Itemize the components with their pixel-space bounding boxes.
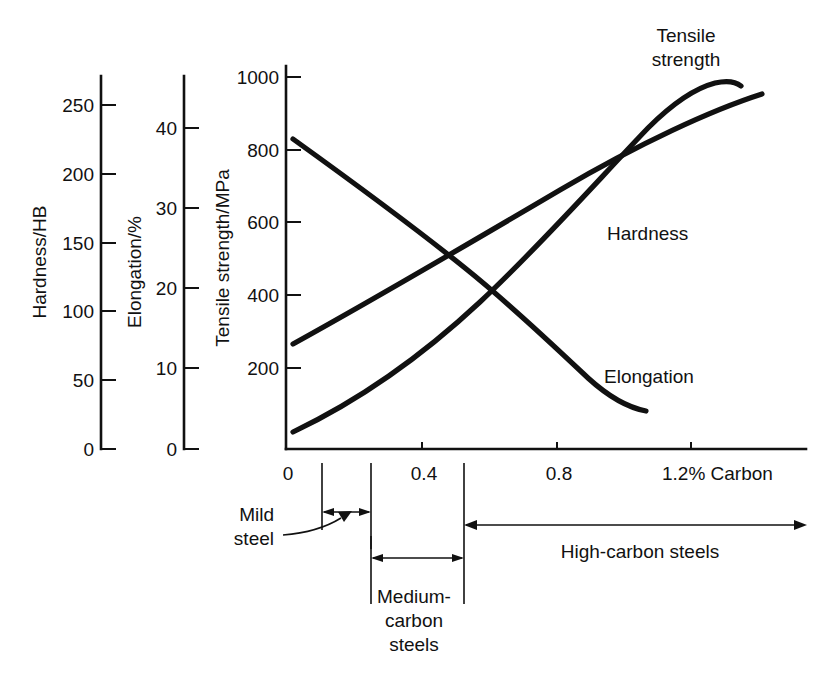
elongation-tick-label-10: 10 bbox=[156, 358, 177, 379]
hardness-curve bbox=[293, 94, 762, 344]
medium-carbon-label-line3: steels bbox=[389, 634, 439, 655]
elongation-tick-label-30: 30 bbox=[156, 198, 177, 219]
hardness-tick-label-200: 200 bbox=[62, 164, 94, 185]
mild-steel-leader-path bbox=[283, 518, 341, 535]
carbon-tick-label-1p2-carbon: 1.2% Carbon bbox=[662, 463, 773, 484]
carbon-tick-label-0p4: 0.4 bbox=[411, 463, 438, 484]
curve-labels: Tensile strength Hardness Elongation bbox=[604, 25, 720, 387]
hardness-tick-label-250: 250 bbox=[62, 95, 94, 116]
tensile-strength-label-line2: strength bbox=[652, 49, 721, 70]
chart-figure: 250 200 150 100 50 0 Hardness/HB 40 30 2… bbox=[0, 0, 838, 678]
elongation-tick-label-0: 0 bbox=[166, 439, 177, 460]
carbon-axis: 0 0.4 0.8 1.2% Carbon bbox=[283, 442, 806, 484]
hardness-tick-label-0: 0 bbox=[83, 439, 94, 460]
hardness-label: Hardness bbox=[607, 223, 688, 244]
mild-steel-leader-arrowhead bbox=[338, 511, 352, 522]
high-carbon-label: High-carbon steels bbox=[561, 541, 719, 562]
high-carbon-arrowhead-left bbox=[464, 520, 477, 530]
tensile-axis: 1000 800 600 400 200 Tensile strength/MP… bbox=[212, 66, 301, 449]
elongation-axis-title: Elongation/% bbox=[124, 216, 145, 328]
tensile-tick-label-800: 800 bbox=[247, 140, 279, 161]
hardness-axis-title: Hardness/HB bbox=[29, 206, 50, 319]
carbon-tick-label-0p8: 0.8 bbox=[546, 463, 572, 484]
mild-steel-label-line2: steel bbox=[234, 528, 274, 549]
elongation-axis: 40 30 20 10 0 Elongation/% bbox=[124, 76, 199, 460]
medium-carbon-arrowhead-left bbox=[371, 554, 383, 562]
medium-carbon-label-line2: carbon bbox=[385, 610, 443, 631]
tensile-axis-title: Tensile strength/MPa bbox=[212, 169, 233, 347]
medium-carbon-dimension-arrow bbox=[371, 554, 464, 562]
hardness-tick-label-100: 100 bbox=[62, 301, 94, 322]
chart-canvas: 250 200 150 100 50 0 Hardness/HB 40 30 2… bbox=[0, 0, 838, 678]
tensile-tick-label-600: 600 bbox=[247, 212, 279, 233]
elongation-label: Elongation bbox=[604, 366, 694, 387]
tensile-tick-label-1000: 1000 bbox=[237, 67, 279, 88]
medium-carbon-arrowhead-right bbox=[452, 554, 464, 562]
hardness-tick-label-50: 50 bbox=[73, 370, 94, 391]
tensile-tick-label-400: 400 bbox=[247, 285, 279, 306]
carbon-tick-label-0: 0 bbox=[283, 463, 294, 484]
tensile-tick-label-200: 200 bbox=[247, 358, 279, 379]
mild-steel-label-line1: Mild bbox=[239, 504, 274, 525]
high-carbon-dimension-arrow bbox=[464, 520, 807, 530]
hardness-tick-label-150: 150 bbox=[62, 233, 94, 254]
mild-steel-leader-arrow bbox=[283, 511, 352, 535]
elongation-curve bbox=[293, 139, 646, 411]
region-annotations: Mild steel Medium- carbon steels High-ca… bbox=[234, 463, 807, 655]
medium-carbon-label-line1: Medium- bbox=[377, 586, 451, 607]
high-carbon-arrowhead-right bbox=[794, 520, 807, 530]
mild-steel-arrowhead-right bbox=[359, 508, 371, 516]
hardness-axis: 250 200 150 100 50 0 Hardness/HB bbox=[29, 76, 116, 460]
elongation-tick-label-20: 20 bbox=[156, 278, 177, 299]
tensile-strength-label-line1: Tensile bbox=[656, 25, 715, 46]
elongation-tick-label-40: 40 bbox=[156, 118, 177, 139]
mild-steel-arrowhead-left bbox=[322, 508, 334, 516]
